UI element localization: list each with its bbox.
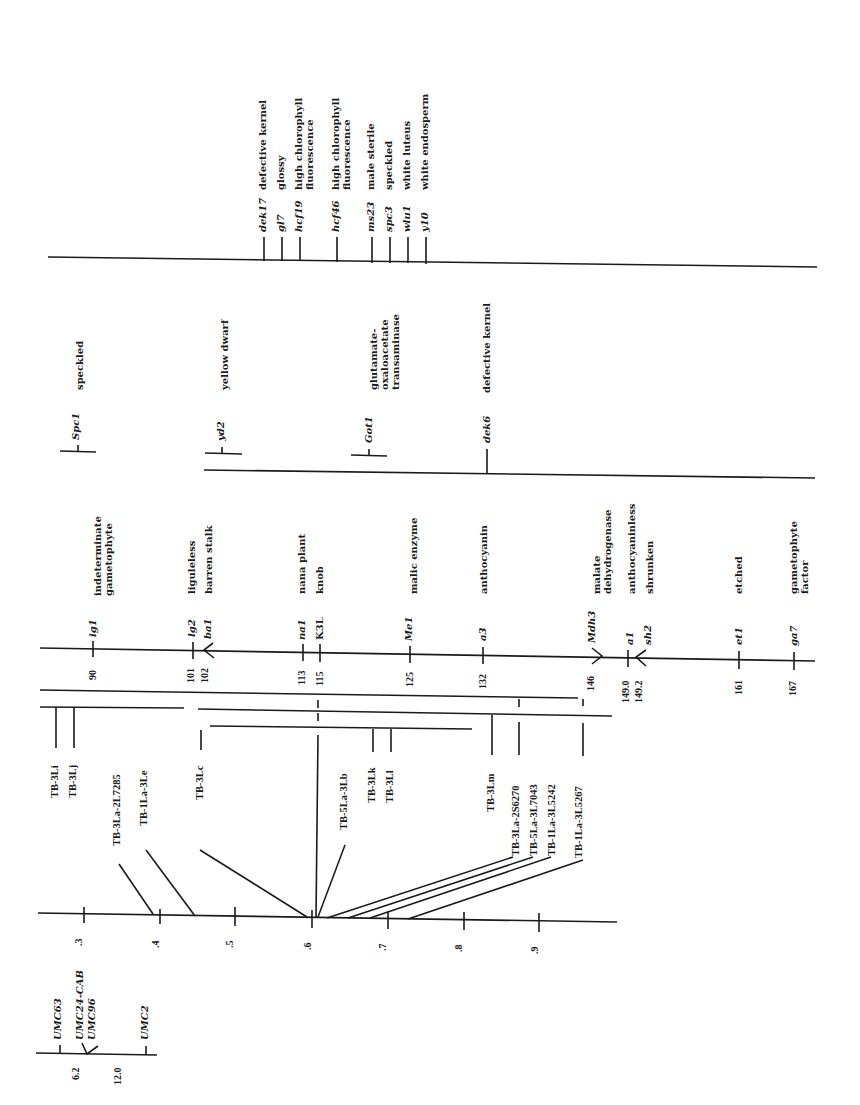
locus-description: barren stalk xyxy=(203,525,214,594)
approx-locus-description: speckled xyxy=(74,341,85,390)
unplaced-locus-description: glossy xyxy=(275,155,286,190)
approx-locus-symbol: dek6 xyxy=(481,416,492,443)
locus-description: knob xyxy=(314,566,325,594)
locus-position: 161 xyxy=(733,680,744,695)
cyto-tick: .8 xyxy=(453,945,464,953)
translocation-label: TB-3La-2S6270 xyxy=(510,785,521,856)
cyto-tick: .6 xyxy=(302,943,313,951)
unplaced-locus-description: white luteus xyxy=(401,121,412,190)
approx-locus-symbol: Spc1 xyxy=(70,413,81,440)
locus-description: anthocyanin xyxy=(478,525,489,594)
unplaced-locus-description: white endosperm xyxy=(419,94,430,190)
approx-locus-symbol: Got1 xyxy=(363,416,374,443)
unplaced-locus-description: speckled xyxy=(383,141,394,190)
umc-marker: UMC63 xyxy=(52,998,63,1040)
cyto-tick: .5 xyxy=(224,941,235,949)
translocation-label: TB-3Ll xyxy=(384,770,395,803)
locus-position: 115 xyxy=(314,672,325,686)
unplaced-locus-symbol: ms23 xyxy=(365,202,376,232)
translocation-label: TB-1La-3L5267 xyxy=(573,786,584,858)
locus-position: 149.2 xyxy=(633,681,644,704)
locus-description: malic enzyme xyxy=(408,518,419,594)
cyto-tick: .3 xyxy=(73,939,84,947)
locus-description: malate dehydrogenase xyxy=(591,504,613,594)
unplaced-locus-description: high chlorophyll fluorescence xyxy=(293,90,315,190)
unplaced-locus-description: defective kernel xyxy=(257,100,268,190)
translocation-label: TB-5La-3L7043 xyxy=(528,784,539,856)
locus-description: gametophyte factor xyxy=(788,516,810,594)
locus-symbol: K3L xyxy=(314,617,325,640)
translocation-label: TB-3Lk xyxy=(366,767,377,803)
locus-symbol: ba1 xyxy=(202,619,213,639)
approx-locus-symbol: yd2 xyxy=(215,421,226,441)
unplaced-locus-symbol: hcf19 xyxy=(293,200,304,232)
locus-position: 167 xyxy=(787,681,798,696)
locus-symbol: Mdh3 xyxy=(586,611,597,643)
locus-symbol: ig1 xyxy=(87,619,98,637)
cyto-tick: .7 xyxy=(377,944,388,952)
translocation-label: TB-3Lj xyxy=(67,765,78,798)
locus-symbol: Me1 xyxy=(403,617,414,641)
translocation-label: TB-3Lm xyxy=(485,773,496,812)
umc-distance: 6.2 xyxy=(70,1068,81,1081)
locus-position: 132 xyxy=(477,674,488,689)
locus-position: 102 xyxy=(199,668,210,683)
unplaced-locus-symbol: gl7 xyxy=(275,214,286,232)
locus-position: 149.0 xyxy=(620,681,631,704)
locus-position: 113 xyxy=(296,671,307,685)
umc-marker: UMC96 xyxy=(86,998,97,1040)
umc-marker: UMC2 xyxy=(139,1005,150,1040)
cyto-tick: .4 xyxy=(150,941,161,949)
unplaced-locus-description: male sterile xyxy=(365,123,376,190)
translocation-label: TB-3Li xyxy=(49,765,60,798)
approx-locus-description: defective kernel xyxy=(481,303,492,393)
locus-description: liguleless xyxy=(186,541,197,594)
chromosome-map: UMC63 UMC24-CAB UMC96 UMC2 6.2 12.0 .3 .… xyxy=(0,0,860,1105)
unplaced-locus-symbol: hcf46 xyxy=(330,200,341,232)
locus-symbol: a3 xyxy=(477,628,488,641)
cyto-tick: .9 xyxy=(529,947,540,955)
unplaced-locus-symbol: wlu1 xyxy=(401,205,412,232)
translocation-label: TB-1La-3L5242 xyxy=(546,784,557,856)
approx-locus-description: glutamate-oxaloacetate transaminase xyxy=(368,318,401,390)
locus-position: 125 xyxy=(404,672,415,687)
translocation-label: TB-3Lc xyxy=(194,766,205,800)
map-lines xyxy=(0,0,860,1105)
locus-position: 146 xyxy=(585,676,596,691)
approx-locus-description: yellow dwarf xyxy=(219,320,230,390)
locus-description: nana plant xyxy=(296,534,307,594)
locus-symbol: ga7 xyxy=(788,626,799,646)
umc-marker: UMC24-CAB xyxy=(74,970,85,1040)
unplaced-locus-symbol: y10 xyxy=(419,212,430,232)
locus-description: anthocyaninless xyxy=(626,504,637,594)
umc-distance: 12.0 xyxy=(112,1068,123,1086)
translocation-label: TB-3La-2L7285 xyxy=(111,774,122,846)
locus-description: etched xyxy=(733,556,744,594)
locus-symbol: lg2 xyxy=(186,619,197,637)
locus-position: 90 xyxy=(87,670,98,680)
locus-description: shrunken xyxy=(644,541,655,594)
translocation-label: TB-1La-3Le xyxy=(138,771,149,826)
translocation-label: TB-5La-3Lb xyxy=(338,773,349,830)
locus-symbol: a1 xyxy=(624,632,635,645)
locus-description: indeterminate gametophyte xyxy=(92,508,114,596)
locus-symbol: sh2 xyxy=(642,625,653,645)
locus-symbol: et1 xyxy=(733,627,744,645)
unplaced-locus-description: high chlorophyll fluorescence xyxy=(330,90,352,190)
locus-symbol: na1 xyxy=(296,619,307,640)
locus-position: 101 xyxy=(185,668,196,683)
unplaced-locus-symbol: spc3 xyxy=(383,206,394,232)
unplaced-locus-symbol: dek17 xyxy=(257,198,268,232)
